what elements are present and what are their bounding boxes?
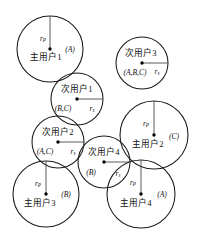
set-label-primary-user-1: (A) [65,45,75,54]
node-label-secondary-user-3: 次用户3 [125,47,156,58]
center-dot-primary-user-1 [48,47,51,50]
center-dot-primary-user-3 [44,192,47,195]
radius-label-primary-user-2: rP [143,119,150,128]
node-label-primary-user-2: 主用户2 [132,138,163,149]
set-label-primary-user-3: (B) [61,190,71,199]
radius-label-secondary-user-1: rs [90,104,95,113]
center-dot-secondary-user-4 [102,160,105,163]
center-dot-secondary-user-2 [56,140,59,143]
set-label-secondary-user-3: (A,B,C) [123,68,147,77]
radius-label-primary-user-1: rP [40,34,47,43]
node-label-primary-user-1: 主用户1 [30,51,61,62]
node-label-secondary-user-4: 次用户4 [88,146,120,157]
set-label-secondary-user-1: (B,C) [55,104,72,113]
center-dot-primary-user-2 [152,133,155,136]
center-dot-secondary-user-1 [75,97,78,100]
node-label-secondary-user-1: 次用户1 [61,83,92,94]
set-label-secondary-user-2: (A,C) [37,147,54,156]
radius-label-primary-user-3: rP [35,179,42,188]
radius-label-primary-user-4: rP [130,178,137,187]
coverage-diagram: rPrsrsrPrsrsrPrP 主用户1(A)次用户3(A,B,C)次用户1(… [0,0,201,244]
diagram-canvas: rPrsrsrPrsrsrPrP 主用户1(A)次用户3(A,B,C)次用户1(… [0,0,201,244]
radius-label-secondary-user-2: rs [71,147,76,156]
node-label-primary-user-3: 主用户3 [24,197,55,208]
radius-label-secondary-user-4: rs [116,169,121,178]
node-label-secondary-user-2: 次用户2 [42,126,73,137]
set-label-primary-user-2: (C) [169,132,180,141]
node-label-primary-user-4: 主用户4 [120,197,152,208]
set-label-primary-user-4: (A) [157,190,167,199]
radius-label-secondary-user-3: rs [155,67,160,76]
center-dot-secondary-user-3 [140,61,143,64]
center-dot-primary-user-4 [139,192,142,195]
set-label-secondary-user-4: (B) [86,168,96,177]
